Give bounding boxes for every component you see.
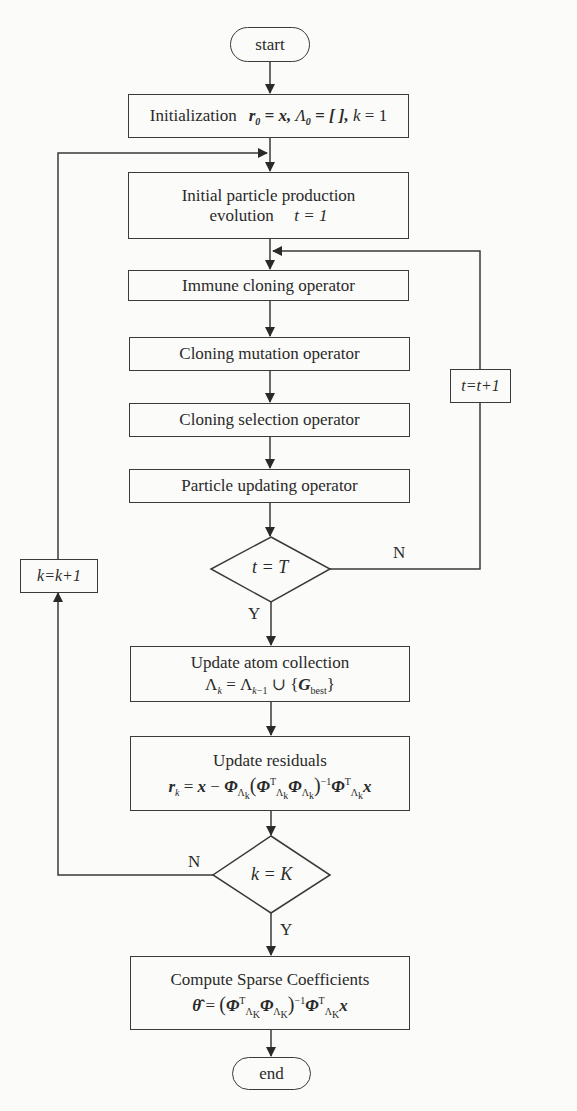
immune-cloning-box: Immune cloning operator bbox=[128, 270, 409, 301]
end-terminal: end bbox=[232, 1057, 311, 1090]
t-increment-box: t=t+1 bbox=[450, 369, 511, 403]
initialization-formula: r0 = x, Λ0 = [ ], k = 1 bbox=[249, 106, 388, 126]
initial-particle-line1: Initial particle production bbox=[182, 186, 356, 206]
cloning-mutation-label: Cloning mutation operator bbox=[179, 344, 359, 364]
update-residuals-line1: Update residuals bbox=[213, 751, 327, 771]
decision-t-yes-label: Y bbox=[248, 604, 260, 624]
decision-t-label: t = T bbox=[252, 557, 288, 578]
flowchart-edges bbox=[0, 0, 577, 1111]
initial-particle-formula: t = 1 bbox=[294, 206, 327, 225]
immune-cloning-label: Immune cloning operator bbox=[182, 276, 355, 296]
update-atom-box: Update atom collection Λk = Λk−1 ∪ {Gbes… bbox=[130, 646, 410, 702]
initial-particle-box: Initial particle production evolution t … bbox=[128, 172, 409, 239]
decision-k-label: k = K bbox=[251, 864, 292, 885]
initialization-box: Initialization r0 = x, Λ0 = [ ], k = 1 bbox=[128, 94, 409, 138]
initial-particle-evolution: evolution bbox=[210, 206, 274, 225]
initial-particle-line2: evolution t = 1 bbox=[210, 206, 328, 226]
start-terminal: start bbox=[230, 27, 310, 62]
end-label: end bbox=[259, 1064, 284, 1084]
k-increment-box: k=k+1 bbox=[20, 559, 98, 593]
t-increment-label: t=t+1 bbox=[461, 376, 499, 396]
start-label: start bbox=[255, 35, 284, 55]
initialization-label: Initialization bbox=[150, 106, 237, 126]
decision-k-no-label: N bbox=[188, 852, 200, 872]
cloning-selection-label: Cloning selection operator bbox=[179, 410, 359, 430]
compute-coefficients-formula: θ̂ = (ΦTΛKΦΛK)−1ΦTΛKx bbox=[192, 994, 347, 1016]
decision-t-no-label: N bbox=[393, 543, 405, 563]
update-residuals-box: Update residuals rk = x − ΦΛk(ΦTΛkΦΛk)−1… bbox=[130, 736, 410, 811]
cloning-selection-box: Cloning selection operator bbox=[129, 403, 410, 437]
update-atom-formula: Λk = Λk−1 ∪ {Gbest} bbox=[205, 675, 335, 695]
k-increment-label: k=k+1 bbox=[37, 566, 81, 586]
update-residuals-formula: rk = x − ΦΛk(ΦTΛkΦΛk)−1ΦTΛkx bbox=[168, 775, 371, 797]
decision-k-yes-label: Y bbox=[280, 920, 292, 940]
particle-updating-box: Particle updating operator bbox=[129, 469, 410, 503]
compute-coefficients-box: Compute Sparse Coefficients θ̂ = (ΦTΛKΦΛ… bbox=[130, 956, 410, 1030]
update-atom-line1: Update atom collection bbox=[191, 653, 350, 673]
particle-updating-label: Particle updating operator bbox=[181, 476, 358, 496]
compute-coefficients-line1: Compute Sparse Coefficients bbox=[171, 970, 370, 990]
cloning-mutation-box: Cloning mutation operator bbox=[129, 337, 410, 371]
